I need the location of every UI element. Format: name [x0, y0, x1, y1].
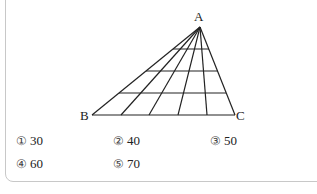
- choice-value: 40: [127, 133, 140, 148]
- choice-3[interactable]: ③50: [210, 133, 237, 149]
- choice-2[interactable]: ②40: [113, 133, 140, 149]
- choice-number: ①: [16, 134, 27, 148]
- choice-5[interactable]: ⑤70: [113, 156, 140, 172]
- choice-number: ⑤: [113, 157, 124, 171]
- choice-value: 70: [127, 156, 140, 171]
- choice-value: 60: [30, 156, 43, 171]
- label-B: B: [80, 108, 89, 123]
- label-A: A: [194, 9, 204, 24]
- choice-value: 50: [224, 133, 237, 148]
- choice-1[interactable]: ①30: [16, 133, 43, 149]
- choice-number: ④: [16, 157, 27, 171]
- choice-number: ③: [210, 134, 221, 148]
- label-C: C: [236, 108, 245, 123]
- choice-value: 30: [30, 133, 43, 148]
- triangle-figure: A B C: [0, 0, 317, 194]
- choice-4[interactable]: ④60: [16, 156, 43, 172]
- choice-number: ②: [113, 134, 124, 148]
